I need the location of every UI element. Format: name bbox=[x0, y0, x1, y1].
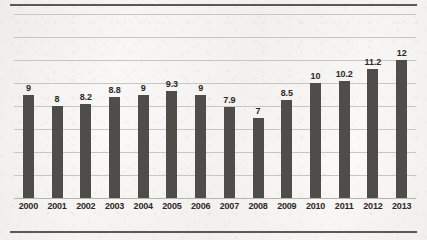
x-axis-label: 2000 bbox=[12, 201, 44, 211]
bar bbox=[396, 60, 407, 198]
bar-value-label: 9.3 bbox=[156, 79, 188, 89]
bar-value-label: 8.8 bbox=[99, 85, 131, 95]
bar-value-label: 12 bbox=[386, 48, 418, 58]
x-axis-label: 2008 bbox=[242, 201, 274, 211]
bar bbox=[195, 95, 206, 199]
bar bbox=[367, 69, 378, 198]
chart-top-border bbox=[10, 4, 417, 6]
x-axis-label: 2005 bbox=[156, 201, 188, 211]
bar bbox=[281, 100, 292, 198]
bar bbox=[310, 83, 321, 198]
bar-value-label: 7 bbox=[242, 106, 274, 116]
bar bbox=[253, 118, 264, 199]
chart-bars-layer bbox=[14, 14, 416, 198]
bar-value-label: 8.5 bbox=[271, 88, 303, 98]
x-axis-label: 2012 bbox=[357, 201, 389, 211]
bar-value-label: 10 bbox=[300, 71, 332, 81]
bar-value-label: 9 bbox=[127, 83, 159, 93]
bar-value-label: 7.9 bbox=[213, 95, 245, 105]
x-axis-label: 2007 bbox=[213, 201, 245, 211]
bar-value-label: 8.2 bbox=[70, 92, 102, 102]
x-axis-label: 2002 bbox=[70, 201, 102, 211]
bar-value-label: 9 bbox=[12, 83, 44, 93]
x-axis-label: 2004 bbox=[127, 201, 159, 211]
x-axis-label: 2003 bbox=[99, 201, 131, 211]
x-axis-label: 2011 bbox=[328, 201, 360, 211]
bar bbox=[224, 107, 235, 198]
bar bbox=[52, 106, 63, 198]
x-axis-label: 2010 bbox=[300, 201, 332, 211]
bar bbox=[109, 97, 120, 198]
bar bbox=[23, 95, 34, 199]
x-axis-label: 2001 bbox=[41, 201, 73, 211]
axis-baseline bbox=[14, 198, 416, 199]
x-axis-label: 2013 bbox=[386, 201, 418, 211]
bar bbox=[80, 104, 91, 198]
x-axis-label: 2009 bbox=[271, 201, 303, 211]
bar-chart: 92000820018.220028.82003920049.320059200… bbox=[0, 0, 427, 240]
bar-value-label: 10.2 bbox=[328, 69, 360, 79]
bar bbox=[339, 81, 350, 198]
bar bbox=[138, 95, 149, 199]
bar bbox=[166, 91, 177, 198]
x-axis-label: 2006 bbox=[185, 201, 217, 211]
bar-value-label: 11.2 bbox=[357, 57, 389, 67]
bar-value-label: 8 bbox=[41, 94, 73, 104]
chart-bottom-border bbox=[10, 231, 417, 233]
bar-value-label: 9 bbox=[185, 83, 217, 93]
